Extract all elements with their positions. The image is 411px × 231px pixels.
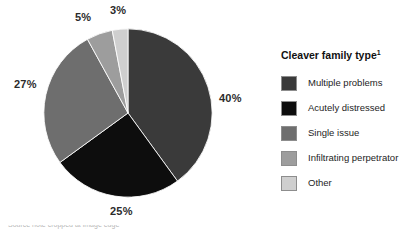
legend-title-footnote-marker: 1 (377, 49, 381, 56)
legend-item-label: Multiple problems (308, 78, 382, 88)
legend-item[interactable]: Acutely distressed (281, 96, 411, 121)
legend-swatch (281, 126, 297, 141)
pie-label-acutely-distressed: 25% (110, 206, 133, 217)
legend-item[interactable]: Multiple problems (281, 71, 411, 96)
legend-item[interactable]: Single issue (281, 121, 411, 146)
legend-swatch (281, 176, 297, 191)
legend: Cleaver family type1 Multiple problemsAc… (281, 50, 411, 196)
legend-item[interactable]: Infiltrating perpetrator (281, 146, 411, 171)
legend-title-text: Cleaver family type (281, 49, 377, 61)
cropped-caption-text: Source note cropped at image edge (8, 225, 263, 228)
pie-slices-group (44, 29, 212, 197)
cropped-caption: Source note cropped at image edge (8, 225, 263, 231)
legend-swatch (281, 151, 297, 166)
pie-label-multiple-problems: 40% (219, 93, 242, 104)
legend-item[interactable]: Other (281, 171, 411, 196)
pie-chart-figure: 40% 25% 27% 5% 3% Cleaver family type1 M… (0, 0, 411, 231)
pie-label-single-issue: 27% (14, 79, 37, 90)
legend-item-label: Other (308, 178, 332, 188)
legend-item-label: Acutely distressed (308, 103, 385, 113)
pie-label-other: 3% (110, 5, 126, 16)
legend-title: Cleaver family type1 (281, 50, 411, 62)
legend-item-label: Infiltrating perpetrator (308, 153, 398, 163)
pie-plot-area: 40% 25% 27% 5% 3% (0, 0, 265, 231)
legend-swatch (281, 101, 297, 116)
pie-svg (43, 28, 213, 198)
legend-items: Multiple problemsAcutely distressedSingl… (281, 71, 411, 196)
legend-item-label: Single issue (308, 128, 359, 138)
legend-swatch (281, 76, 297, 91)
pie-label-infiltrating-perpetrator: 5% (75, 12, 91, 23)
